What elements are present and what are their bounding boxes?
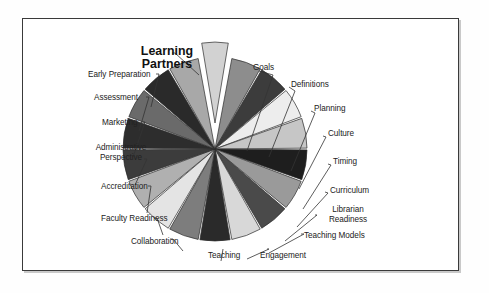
label-teaching-models: Teaching Models xyxy=(304,231,365,241)
figure-root: Learning Partners Goals Definitions Plan… xyxy=(0,0,489,293)
pie-slices xyxy=(123,42,307,241)
label-goals: Goals xyxy=(253,63,274,73)
label-librarian-readiness: Librarian Readiness xyxy=(320,205,376,224)
label-teaching: Teaching xyxy=(208,251,240,261)
label-definitions: Definitions xyxy=(291,80,329,90)
label-accreditation: Accreditation xyxy=(101,182,148,192)
label-administrative-perspective: Administrative Perspective xyxy=(85,143,157,162)
label-engagement: Engagement xyxy=(260,251,306,261)
label-marketing: Marketing xyxy=(102,118,138,128)
figure-frame: Learning Partners Goals Definitions Plan… xyxy=(22,18,459,271)
label-timing: Timing xyxy=(333,157,357,167)
label-leader-line xyxy=(303,164,331,209)
label-planning: Planning xyxy=(314,104,345,114)
chart-title: Learning Partners xyxy=(119,45,215,72)
label-assessment: Assessment xyxy=(94,93,138,103)
label-collaboration: Collaboration xyxy=(131,237,179,247)
label-faculty-readiness: Faculty Readiness xyxy=(101,214,168,224)
label-culture: Culture xyxy=(328,129,354,139)
label-curriculum: Curriculum xyxy=(330,186,369,196)
label-early-preparation: Early Preparation xyxy=(88,70,150,80)
